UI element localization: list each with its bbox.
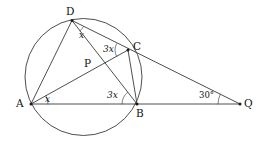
angle-label-B: 3x (107, 91, 118, 100)
point-label-D: D (66, 6, 74, 17)
vertex-dot-C (127, 49, 130, 52)
point-label-C: C (133, 41, 141, 52)
point-label-B: B (136, 108, 144, 119)
vertex-dot-A (30, 103, 33, 106)
angle-arc-Q (218, 94, 220, 104)
segment-BC (128, 50, 137, 104)
point-label-P: P (84, 58, 91, 69)
point-label-A: A (16, 98, 24, 109)
segment-DA (31, 21, 72, 105)
angle-arc-C (115, 44, 117, 56)
segment-DQ (72, 21, 240, 105)
geometry-canvas (0, 0, 257, 148)
point-label-Q: Q (244, 98, 253, 109)
geometry-diagram: D C B A Q P x 3x x 3x 30° (0, 0, 257, 148)
angle-label-C: 3x (103, 45, 114, 54)
vertex-dot-B (136, 103, 139, 106)
angle-label-Q: 30° (199, 91, 214, 100)
vertex-dot-Q (239, 103, 242, 106)
angle-label-A: x (45, 95, 50, 104)
angle-arc-group (46, 27, 220, 104)
angle-arc-B (122, 92, 128, 104)
vertex-dot-D (71, 19, 74, 22)
angle-label-D: x (79, 31, 84, 40)
